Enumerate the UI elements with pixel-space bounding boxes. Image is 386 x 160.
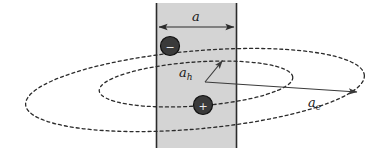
electron-charge-symbol: − <box>165 41 174 54</box>
hole-radius-label-subscript: h <box>187 72 193 82</box>
slab-width-label: a <box>192 9 200 24</box>
hole-radius-label-base: a <box>179 65 187 80</box>
electron-radius-label-subscript: e <box>316 102 321 112</box>
figure-container: a − + ah ae <box>0 0 386 160</box>
electron-radius-label: ae <box>308 95 321 112</box>
hole-charge-symbol: + <box>198 100 207 113</box>
electron-radius-label-base: a <box>308 95 316 110</box>
exciton-diagram: a − + ah ae <box>0 0 386 160</box>
quantum-well-slab <box>156 3 237 148</box>
